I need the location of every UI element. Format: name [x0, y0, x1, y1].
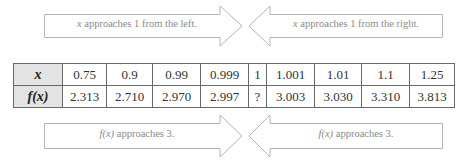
arrow-text: approaches 1 from the right.: [298, 18, 419, 29]
table-row-x: x 0.75 0.9 0.99 0.999 1 1.001 1.01 1.1 1…: [14, 64, 455, 86]
table-cell: 2.997: [201, 86, 249, 108]
table-cell: 3.003: [267, 86, 315, 108]
table-row-fx: f(x) 2.313 2.710 2.970 2.997 ? 3.003 3.0…: [14, 86, 455, 108]
table-cell: 1.01: [315, 64, 362, 86]
table-cell: 2.970: [153, 86, 201, 108]
arrow-text: approaches 1 from the left.: [82, 18, 197, 29]
arrow-var: f(x): [100, 128, 115, 139]
arrow-label: f(x) approaches 3.: [44, 128, 230, 139]
arrow-label: x approaches 1 from the right.: [270, 18, 442, 29]
values-table: x 0.75 0.9 0.99 0.999 1 1.001 1.01 1.1 1…: [13, 63, 455, 108]
table-cell: ?: [249, 86, 267, 108]
arrow-text: approaches 3.: [333, 128, 393, 139]
arrow-label: x approaches 1 from the left.: [44, 18, 230, 29]
table-cell: 0.75: [63, 64, 107, 86]
table-cell: 3.030: [315, 86, 362, 108]
table-cell: 0.999: [201, 64, 249, 86]
arrow-text: approaches 3.: [114, 128, 174, 139]
table-cell: 1.1: [362, 64, 410, 86]
table-cell: 2.313: [63, 86, 107, 108]
table-cell: 1.25: [410, 64, 455, 86]
row-header-x: x: [14, 64, 63, 86]
row-header-fx: f(x): [14, 86, 63, 108]
arrow-fx-from-left: f(x) approaches 3.: [44, 114, 244, 158]
arrow-var: f(x): [319, 128, 334, 139]
table-cell: 3.813: [410, 86, 455, 108]
arrow-fx-from-right: f(x) approaches 3.: [248, 114, 444, 158]
arrow-x-from-left: x approaches 1 from the left.: [44, 5, 244, 47]
table-cell: 0.9: [107, 64, 153, 86]
table-cell: 1: [249, 64, 267, 86]
table-cell: 0.99: [153, 64, 201, 86]
arrow-x-from-right: x approaches 1 from the right.: [248, 5, 444, 47]
table-cell: 1.001: [267, 64, 315, 86]
table-cell: 2.710: [107, 86, 153, 108]
table-cell: 3.310: [362, 86, 410, 108]
arrow-label: f(x) approaches 3.: [270, 128, 442, 139]
